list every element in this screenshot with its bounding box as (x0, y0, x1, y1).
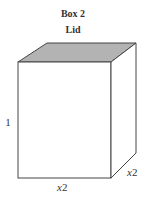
diagram-title: Box 2 (61, 8, 85, 19)
width-label: x2 (56, 181, 67, 193)
depth-label: x2 (126, 166, 137, 178)
height-label: 1 (5, 116, 11, 128)
front-face (18, 62, 111, 178)
width-sub: 2 (62, 181, 68, 193)
lid-label: Lid (65, 24, 80, 35)
depth-sub: 2 (132, 166, 138, 178)
side-face (111, 43, 136, 178)
box-diagram: Box 2 Lid 1 x2 x2 (0, 0, 147, 202)
